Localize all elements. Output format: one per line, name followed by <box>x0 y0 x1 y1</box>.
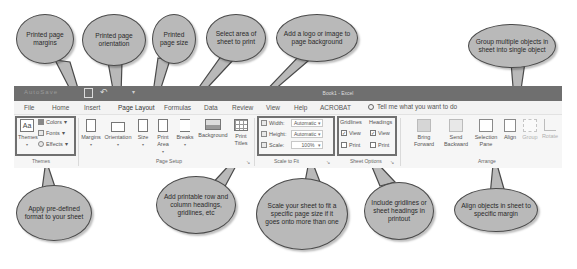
callout-align: Align objects in sheet to specific margi… <box>454 188 538 232</box>
headings-print-checkbox[interactable]: Print <box>370 142 389 148</box>
size-icon <box>138 119 148 132</box>
tab-data[interactable]: Data <box>204 104 218 111</box>
tab-review[interactable]: Review <box>232 104 253 111</box>
ribbon-page-layout: Aa Themes▾ Colors▾ Fonts▾ Effects▾ Theme… <box>14 114 562 168</box>
group-icon <box>523 119 537 132</box>
themes-button[interactable]: Aa Themes▾ <box>18 119 36 148</box>
callout-margins: Printed page margins <box>16 14 74 64</box>
background-icon <box>205 119 221 130</box>
breaks-button[interactable]: Breaks▾ <box>175 119 195 148</box>
bring-forward-icon <box>417 119 431 132</box>
tab-help[interactable]: Help <box>294 104 307 111</box>
callout-size: Printed page size <box>152 14 196 64</box>
headings-heading: Headings <box>369 119 392 125</box>
send-backward-icon <box>449 119 463 132</box>
page-setup-launcher-icon[interactable]: ↘ <box>246 159 250 165</box>
group-label-scale-to-fit: Scale to Fit <box>274 158 299 164</box>
tab-insert[interactable]: Insert <box>84 104 100 111</box>
separator <box>400 118 401 166</box>
callout-print-area: Select area of sheet to print <box>206 14 266 62</box>
effects-button[interactable]: Effects▾ <box>38 141 68 147</box>
print-titles-button[interactable]: Print Titles <box>231 119 251 147</box>
checkbox-checked-icon: ✓ <box>370 130 376 136</box>
search-icon <box>368 104 374 110</box>
selection-pane-icon <box>479 119 493 132</box>
height-icon <box>261 131 267 137</box>
title-bar: AutoSave ↶ ▾ Book1 - Excel <box>14 86 562 101</box>
window-title: Book1 - Excel <box>14 90 562 96</box>
margins-icon <box>86 119 96 132</box>
width-dropdown[interactable]: Automatic <box>291 119 323 127</box>
align-button[interactable]: Align <box>501 119 519 141</box>
breaks-icon <box>180 119 190 132</box>
group-label-themes: Themes <box>32 158 50 164</box>
checkbox-unchecked-icon <box>370 142 376 148</box>
sheet-options-launcher-icon[interactable]: ↘ <box>390 159 394 165</box>
fonts-icon <box>38 130 44 136</box>
separator <box>78 118 79 166</box>
bring-forward-button[interactable]: Bring Forward <box>409 119 439 148</box>
print-titles-icon <box>234 119 248 131</box>
callout-sheet-options: Include gridlines or sheet headings in p… <box>364 182 434 240</box>
gridlines-print-checkbox[interactable]: Print <box>341 142 360 148</box>
group-label-page-setup: Page Setup <box>156 158 182 164</box>
group-button[interactable]: Group <box>521 119 539 141</box>
print-area-icon <box>158 119 168 132</box>
callout-group: Group multiple objects in sheet into sin… <box>468 24 556 68</box>
callout-background: Add a logo or image to page background <box>276 14 358 62</box>
group-label-arrange: Arrange <box>478 158 496 164</box>
scale-icon <box>261 142 267 148</box>
excel-window: AutoSave ↶ ▾ Book1 - Excel File Home Ins… <box>14 86 562 168</box>
fonts-button[interactable]: Fonts▾ <box>38 130 65 136</box>
tab-page-layout[interactable]: Page Layout <box>118 104 155 111</box>
orientation-icon <box>111 122 125 132</box>
scale-to-fit-launcher-icon[interactable]: ↘ <box>326 159 330 165</box>
themes-icon: Aa <box>20 119 34 132</box>
selection-pane-button[interactable]: Selection Pane <box>473 119 499 148</box>
callout-scale: Scale your sheet to fit a specific page … <box>256 178 348 250</box>
checkbox-checked-icon: ✓ <box>341 130 347 136</box>
callout-print-titles: Add printable row and column headings, g… <box>156 176 236 234</box>
tell-me-search[interactable]: Tell me what you want to do <box>368 103 457 110</box>
scale-control: Scale: 100% <box>261 141 323 149</box>
headings-view-checkbox[interactable]: ✓View <box>370 130 390 136</box>
rotate-icon <box>544 119 556 131</box>
orientation-button[interactable]: Orientation▾ <box>103 119 133 148</box>
gridlines-view-checkbox[interactable]: ✓View <box>341 130 361 136</box>
colors-button[interactable]: Colors▾ <box>38 119 67 125</box>
tab-view[interactable]: View <box>266 104 280 111</box>
width-icon <box>261 120 267 126</box>
separator <box>254 118 255 166</box>
scale-spinner[interactable]: 100% <box>291 141 323 149</box>
send-backward-button[interactable]: Send Backward <box>441 119 471 148</box>
tab-file[interactable]: File <box>24 104 34 111</box>
ribbon-tabs: File Home Insert Page Layout Formulas Da… <box>14 101 562 114</box>
tab-acrobat[interactable]: ACROBAT <box>320 104 351 111</box>
print-area-button[interactable]: Print Area▾ <box>154 119 172 155</box>
height-dropdown[interactable]: Automatic <box>291 130 323 138</box>
gridlines-heading: Gridlines <box>340 119 362 125</box>
tab-formulas[interactable]: Formulas <box>164 104 191 111</box>
group-label-sheet-options: Sheet Options <box>350 158 382 164</box>
background-button[interactable]: Background <box>197 119 229 139</box>
align-icon <box>504 119 516 132</box>
height-control: Height: Automatic <box>261 130 323 138</box>
tab-home[interactable]: Home <box>52 104 69 111</box>
effects-icon <box>38 141 44 147</box>
margins-button[interactable]: Margins▾ <box>80 119 102 148</box>
callout-orientation: Printed page orientation <box>82 14 146 66</box>
rotate-button[interactable]: Rotate <box>541 119 559 140</box>
size-button[interactable]: Size▾ <box>136 119 150 148</box>
checkbox-unchecked-icon <box>341 142 347 148</box>
colors-icon <box>38 119 44 125</box>
callout-themes: Apply pre-defined format to your sheet <box>16 185 92 241</box>
tell-me-text: Tell me what you want to do <box>377 103 457 110</box>
width-control: Width: Automatic <box>261 119 323 127</box>
